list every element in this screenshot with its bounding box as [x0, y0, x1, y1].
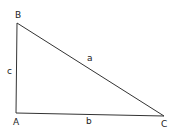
side-a — [17, 23, 164, 116]
side-c — [16, 23, 17, 113]
side-label-a: a — [87, 53, 93, 63]
side-label-c: c — [7, 66, 12, 76]
vertex-label-a: A — [13, 117, 20, 127]
triangle-diagram: A B C a b c — [0, 0, 175, 132]
vertex-label-c: C — [161, 119, 167, 129]
vertex-label-b: B — [15, 10, 21, 20]
side-label-b: b — [86, 116, 92, 126]
